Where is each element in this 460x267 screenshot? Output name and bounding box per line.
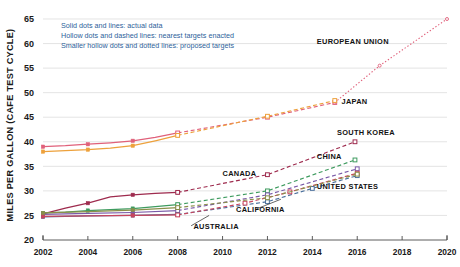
- series-label-china: CHINA: [317, 152, 342, 161]
- x-axis-tick-label: 2014: [303, 247, 322, 257]
- series-enacted-marker: [266, 200, 270, 204]
- chart-container: MILES PER GALLON (CAFE TEST CYCLE) 20253…: [0, 0, 460, 267]
- x-axis-tick-label: 2010: [213, 247, 232, 257]
- series-actual-line: [43, 135, 178, 151]
- series-australia: [41, 172, 359, 214]
- series-proposed-marker: [378, 64, 381, 67]
- x-axis-tick-label: 2008: [168, 247, 187, 257]
- series-actual-marker: [131, 193, 134, 196]
- x-axis-tick-label: 2002: [34, 247, 53, 257]
- x-axis-tick-labels: 2002200420062008201020122014201620182020: [34, 247, 457, 257]
- series-enacted-marker: [353, 158, 357, 162]
- series-actual-marker: [131, 144, 134, 147]
- series-japan: [41, 99, 336, 154]
- series-label-canada: CANADA: [223, 169, 257, 178]
- chart-plot-svg: 20253035404550556065 2002200420062008201…: [0, 0, 460, 267]
- x-axis-tick-label: 2018: [393, 247, 412, 257]
- legend-item: Hollow dots and dashed lines: nearest ta…: [61, 31, 234, 40]
- x-axis-tick-label: 2020: [438, 247, 457, 257]
- y-axis-tick-label: 65: [24, 14, 34, 24]
- series-enacted-line: [178, 102, 335, 132]
- x-axis-tick-label: 2012: [258, 247, 277, 257]
- series-label-south-korea: SOUTH KOREA: [337, 128, 395, 137]
- y-axis-tick-label: 35: [24, 162, 34, 172]
- series-actual-marker: [131, 214, 134, 217]
- series-enacted-marker: [310, 187, 314, 191]
- series-enacted-marker: [243, 201, 247, 205]
- series-label-australia: AUSTRALIA: [193, 222, 239, 231]
- series-label-european-union: EUROPEAN UNION: [317, 37, 389, 46]
- chart-legend: Solid dots and lines: actual dataHollow …: [61, 21, 234, 50]
- series-actual-marker: [41, 150, 44, 153]
- series-enacted-marker: [355, 172, 359, 176]
- series-enacted-marker: [266, 173, 270, 177]
- x-axis: [43, 235, 447, 240]
- series-actual-marker: [41, 145, 44, 148]
- y-axis-tick-labels: 20253035404550556065: [24, 14, 34, 245]
- y-axis-tick-label: 45: [24, 112, 34, 122]
- series-enacted-marker: [176, 133, 180, 137]
- x-axis-tick-label: 2004: [79, 247, 98, 257]
- legend-item: Solid dots and lines: actual data: [61, 21, 163, 30]
- series-enacted-marker: [266, 189, 270, 193]
- series-proposed-line: [335, 19, 447, 102]
- series-enacted-line: [178, 101, 335, 136]
- series-proposed-marker: [446, 18, 449, 21]
- y-axis-tick-label: 20: [24, 235, 34, 245]
- y-axis-tick-label: 55: [24, 63, 34, 73]
- y-axis-tick-label: 30: [24, 186, 34, 196]
- x-axis-tick-label: 2006: [123, 247, 142, 257]
- y-axis-tick-label: 40: [24, 137, 34, 147]
- series-actual-marker: [131, 139, 134, 142]
- series-label-california: CALIFORNIA: [236, 205, 285, 214]
- series-actual-marker: [86, 148, 89, 151]
- series-actual-marker: [86, 143, 89, 146]
- series-actual-marker: [41, 211, 44, 214]
- series-actual-marker: [86, 201, 89, 204]
- y-axis-tick-label: 60: [24, 39, 34, 49]
- series-enacted-marker: [266, 114, 270, 118]
- series-enacted-marker: [333, 99, 337, 103]
- x-axis-tick-label: 2016: [348, 247, 367, 257]
- y-axis-tick-label: 25: [24, 211, 34, 221]
- series-enacted-marker: [355, 167, 359, 171]
- series-actual-marker: [131, 208, 134, 211]
- y-axis-tick-label: 50: [24, 88, 34, 98]
- series-enacted-marker: [266, 196, 270, 200]
- series-label-japan: JAPAN: [342, 97, 368, 106]
- series-actual-marker: [41, 215, 44, 218]
- series-enacted-marker: [176, 213, 180, 217]
- legend-item: Smaller hollow dots and dotted lines: pr…: [61, 41, 234, 50]
- series-enacted-marker: [353, 140, 357, 144]
- series-enacted-marker: [176, 206, 180, 210]
- series-enacted-marker: [176, 190, 180, 194]
- series-label-united-states: UNITED STATES: [317, 182, 379, 191]
